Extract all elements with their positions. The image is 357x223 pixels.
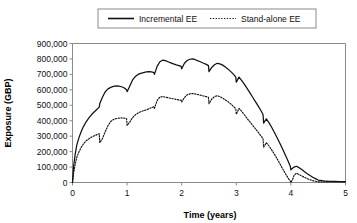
legend-label-1: Incremental EE — [139, 14, 197, 24]
y-tick-label: 400,000 — [37, 116, 68, 126]
y-tick-label: 300,000 — [37, 131, 68, 141]
series-incremental-ee — [73, 59, 346, 183]
exposure-profile-figure: Incremental EEStand-alone EE 0100,000200… — [0, 0, 357, 223]
y-tick-label: 0 — [63, 178, 68, 188]
y-axis-title: Exposure (GBP) — [3, 78, 13, 147]
x-tick-label: 5 — [343, 188, 348, 198]
y-tick-label: 600,000 — [37, 85, 68, 95]
x-tick-label: 3 — [234, 188, 239, 198]
x-tick-label: 0 — [70, 188, 75, 198]
y-tick-label: 100,000 — [37, 162, 68, 172]
x-tick-label: 2 — [179, 188, 184, 198]
x-tick-label: 1 — [125, 188, 130, 198]
x-tick-label: 4 — [289, 188, 294, 198]
x-axis-ticks: 012345 — [70, 183, 348, 198]
plot-series — [73, 59, 346, 183]
y-tick-label: 900,000 — [37, 39, 68, 49]
y-tick-label: 700,000 — [37, 69, 68, 79]
plot-frame — [73, 44, 346, 183]
x-axis-title: Time (years) — [184, 210, 237, 220]
legend-label-2: Stand-alone EE — [241, 14, 301, 24]
y-tick-label: 800,000 — [37, 54, 68, 64]
y-axis-ticks: 0100,000200,000300,000400,000500,000600,… — [37, 39, 73, 188]
axes-frame — [73, 44, 346, 183]
series-stand-alone-ee — [73, 94, 346, 183]
legend: Incremental EEStand-alone EE — [98, 9, 316, 28]
y-tick-label: 200,000 — [37, 147, 68, 157]
y-tick-label: 500,000 — [37, 100, 68, 110]
exposure-chart: Incremental EEStand-alone EE 0100,000200… — [0, 0, 357, 223]
